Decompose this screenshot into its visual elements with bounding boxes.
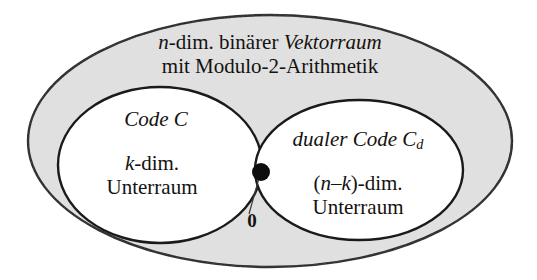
dual-ellipse xyxy=(255,100,463,240)
venn-diagram: n-dim. binärer Vektorraum mit Modulo-2-A… xyxy=(0,0,537,280)
code-ellipse xyxy=(58,87,262,243)
venn-shapes-canvas xyxy=(0,0,537,280)
zero-vector-point xyxy=(252,163,270,181)
